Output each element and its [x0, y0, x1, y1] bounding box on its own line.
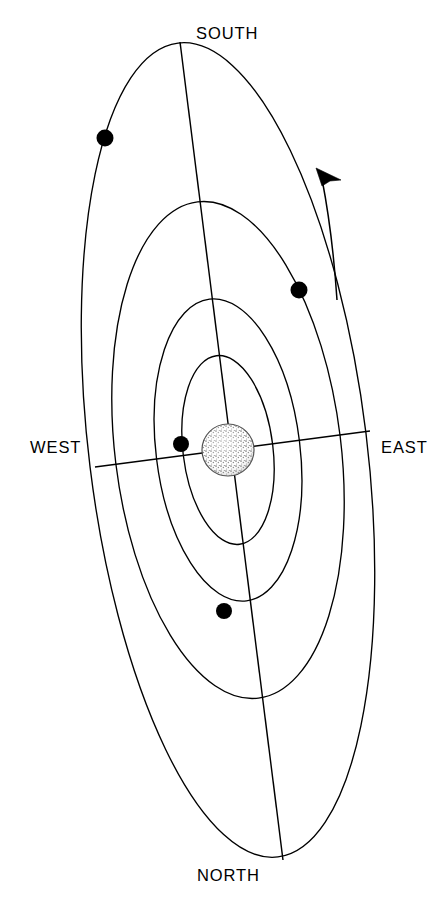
label-east: EAST: [381, 438, 428, 457]
planet-shading: [202, 424, 254, 476]
moon-on-orbit-2: [216, 603, 232, 619]
label-south: SOUTH: [196, 24, 258, 43]
arrow-shaft: [322, 179, 337, 300]
central-planet: [202, 424, 254, 476]
satellite-group: [97, 130, 308, 620]
label-north: NORTH: [197, 866, 260, 885]
label-west: WEST: [30, 438, 81, 457]
moon-on-orbit-4: [97, 130, 114, 147]
orbital-diagram: SOUTH NORTH WEST EAST: [0, 0, 448, 909]
moon-on-orbit-3: [291, 282, 308, 299]
arrow-head-icon: [316, 168, 341, 186]
moon-on-orbit-1: [173, 436, 189, 452]
